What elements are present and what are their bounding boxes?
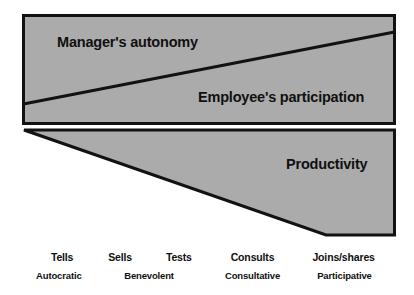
style-secondary-label: Consultative (225, 269, 280, 282)
managers-autonomy-label: Manager's autonomy (57, 35, 198, 50)
style-scale: TellsSellsTestsConsultsJoins/shares Auto… (0, 248, 414, 292)
style-primary-label: Tells (51, 251, 73, 264)
style-primary-label: Joins/shares (312, 251, 374, 264)
style-scale-primary-row: TellsSellsTestsConsultsJoins/shares (0, 251, 414, 267)
style-secondary-label: Participative (317, 269, 372, 282)
style-primary-label: Consults (231, 251, 275, 264)
style-secondary-label: Benevolent (124, 269, 174, 282)
style-primary-label: Tests (166, 251, 192, 264)
productivity-label: Productivity (286, 157, 367, 172)
style-primary-label: Sells (108, 251, 132, 264)
management-continuum-diagram: Manager's autonomy Employee's participat… (0, 0, 414, 295)
style-scale-secondary-row: AutocraticBenevolentConsultativeParticip… (0, 269, 414, 285)
lower-band-group (24, 130, 395, 235)
employees-participation-label: Employee's participation (198, 90, 364, 105)
productivity-wedge-fill (24, 130, 395, 235)
style-secondary-label: Autocratic (36, 269, 81, 282)
upper-band-group (24, 16, 395, 124)
